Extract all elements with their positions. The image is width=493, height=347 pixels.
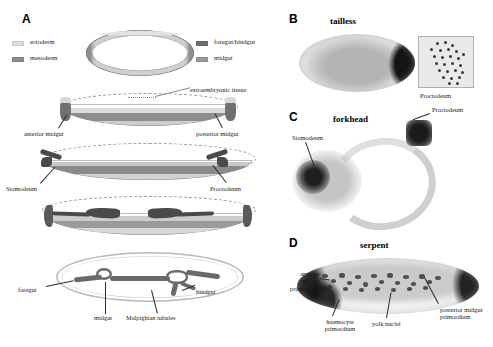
embryo-stage-2-posterior-tip (225, 97, 236, 103)
figure-canvas: A ectoderm mesoderm foregut/hindgut midg… (0, 0, 493, 347)
embryo-stage-2-body (60, 104, 236, 126)
gut-midgut-segment (110, 276, 170, 281)
inset-photo-proctodeum (418, 36, 474, 88)
gene-name-serpent: serpent (360, 240, 389, 250)
label-posterior-midgut-primordium: posterior midgut primordium (440, 306, 488, 321)
legend-label-mesoderm: mesoderm (30, 54, 57, 61)
panel-letter-d: D (289, 236, 298, 250)
embryo-stage-3-posterior-invagination (204, 150, 230, 166)
label-stomodeum-a: Stomodeum (6, 185, 37, 192)
stained-proctodeum-c (406, 120, 432, 146)
label-yolk-nuclei: yolk nuclei (372, 320, 401, 327)
gene-name-tailless: tailless (330, 16, 356, 26)
label-stomodeum-c: Stomodeum (292, 134, 323, 141)
label-proctodeum-c: Proctodeum (432, 106, 463, 113)
embryo-photo-tailless (299, 34, 415, 92)
inset-stained-cells (418, 36, 474, 88)
panel-letter-b: B (289, 12, 298, 26)
embryo-stage-1-lumen (92, 35, 188, 71)
legend-swatch-midgut (196, 57, 208, 62)
label-hindgut: hindgut (196, 288, 216, 295)
legend-label-foregut-hindgut: foregut/hindgut (214, 38, 255, 45)
label-foregut: foregut (18, 286, 36, 293)
embryo-stage-4-posterior-cap (243, 205, 252, 227)
legend-swatch-foregut-hindgut (196, 41, 208, 46)
legend-label-midgut: midgut (214, 54, 233, 61)
label-posterior-midgut: posterior midgut (196, 130, 238, 137)
gene-name-forkhead: forkhead (333, 114, 368, 124)
label-extraembryonic-tissue: extraembryonic tissue (190, 86, 246, 93)
embryo-stage-1-dorsal-band (100, 31, 180, 35)
legend-label-ectoderm: ectoderm (30, 38, 55, 45)
label-anterior-midgut-primordium: anterior midgut primordium (290, 270, 320, 292)
embryo-stage-4-anterior-cap (44, 205, 53, 227)
embryo-stage-2-anterior-tip (60, 97, 71, 103)
label-haemocyte-primordium: haemocyte primordium (318, 318, 362, 333)
panel-letter-c: C (289, 110, 298, 124)
leader-midgut-a (105, 282, 106, 314)
legend-swatch-ectoderm (12, 41, 24, 46)
leader-stomodeum-a (40, 167, 55, 184)
label-proctodeum-a: Proctodeum (210, 185, 241, 192)
label-anterior-midgut: anterior midgut (24, 130, 64, 137)
label-proctodeum-b: Proctodeum (420, 92, 451, 99)
legend-swatch-mesoderm (12, 57, 24, 62)
label-midgut-a: midgut (94, 314, 112, 321)
panel-letter-a: A (22, 12, 31, 26)
label-malpighian-tubules: Malpighian tubules (126, 314, 176, 321)
embryo-stage-3-anterior-invagination (40, 150, 66, 166)
